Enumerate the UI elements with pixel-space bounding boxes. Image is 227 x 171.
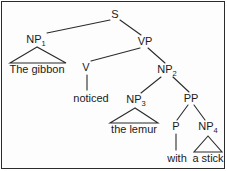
edge-pp-p — [177, 105, 188, 120]
edge-np2-np3 — [141, 77, 161, 93]
leaf-with: with — [167, 153, 187, 164]
edge-s-np1 — [47, 20, 110, 33]
edge-pp-np4 — [194, 105, 205, 120]
edge-vp-np2 — [148, 48, 165, 63]
triangle-np1 — [10, 47, 66, 63]
edge-vp-v — [91, 48, 140, 61]
leaf-noticed: noticed — [73, 93, 108, 104]
node-pp: PP — [184, 93, 199, 104]
node-p: P — [172, 121, 179, 132]
node-s: S — [111, 9, 118, 20]
node-np3: NP3 — [126, 94, 145, 108]
edge-s-vp — [120, 20, 141, 35]
node-vp: VP — [138, 36, 153, 47]
triangle-np3 — [110, 108, 158, 123]
triangle-np4 — [194, 136, 222, 152]
edge-np2-pp — [173, 77, 189, 92]
node-np2: NP2 — [157, 64, 176, 78]
node-np4: NP4 — [198, 121, 217, 135]
tree-edges-layer — [0, 0, 227, 171]
node-np1: NP1 — [26, 34, 45, 48]
leaf-the-lemur: the lemur — [111, 124, 157, 135]
leaf-a-stick: a stick — [192, 153, 223, 164]
node-v: V — [82, 62, 89, 73]
syntax-tree-diagram: S NP1 VP V NP2 NP3 PP P NP4 The gibbon n… — [0, 0, 227, 171]
leaf-the-gibbon: The gibbon — [9, 64, 64, 75]
